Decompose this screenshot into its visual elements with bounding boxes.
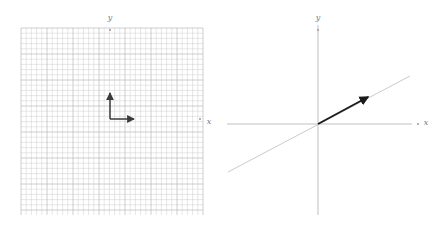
vector-diagonal-arrow bbox=[318, 97, 368, 124]
x-axis-label: x bbox=[424, 118, 429, 127]
grid-minor bbox=[21, 28, 203, 215]
right-panel: y x bbox=[219, 0, 438, 232]
x-tick-dot bbox=[199, 118, 201, 120]
y-tick-dot bbox=[317, 29, 319, 31]
left-panel-svg: y x bbox=[0, 0, 219, 232]
x-tick-dot bbox=[417, 123, 419, 125]
y-axis-label: y bbox=[107, 13, 113, 22]
y-tick-dot bbox=[109, 29, 111, 31]
x-axis-label: x bbox=[207, 117, 212, 126]
right-panel-svg: y x bbox=[219, 0, 438, 232]
y-axis-label: y bbox=[315, 13, 321, 22]
left-panel: y x bbox=[0, 0, 219, 232]
vector-figure: y x y x bbox=[0, 0, 438, 232]
